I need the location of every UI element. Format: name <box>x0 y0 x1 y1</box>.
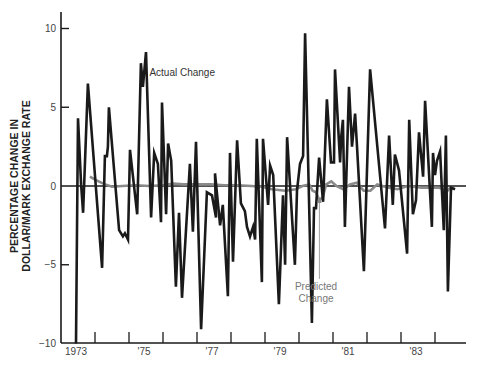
y-tick-label: −5 <box>45 259 57 270</box>
actual-change-label: Actual Change <box>149 67 215 78</box>
predicted-change-label-line-2: Change <box>298 293 333 304</box>
y-axis-title: PERCENTAGE CHANGE IN DOLLAR/MARK EXCHANG… <box>8 100 32 271</box>
y-axis-title-line-1: PERCENTAGE CHANGE IN <box>8 100 20 271</box>
x-tick-label: '79 <box>273 346 286 357</box>
x-tick-label: '75 <box>137 346 150 357</box>
x-tick-label: '83 <box>409 346 422 357</box>
y-tick-label: 5 <box>50 102 56 113</box>
y-tick-label: 0 <box>50 181 56 192</box>
y-tick-label: 10 <box>45 23 57 34</box>
predicted-change-label-line-1: Predicted <box>295 281 337 292</box>
y-axis-title-line-2: DOLLAR/MARK EXCHANGE RATE <box>20 100 32 271</box>
x-tick-label: '81 <box>341 346 354 357</box>
exchange-rate-line-chart: 1050−5−101973'75'77'79'81'83 Actual Chan… <box>0 0 479 367</box>
y-tick-label: −10 <box>39 338 56 349</box>
x-tick-label: 1973 <box>65 346 88 357</box>
series-group <box>76 33 455 343</box>
x-tick-label: '77 <box>205 346 218 357</box>
